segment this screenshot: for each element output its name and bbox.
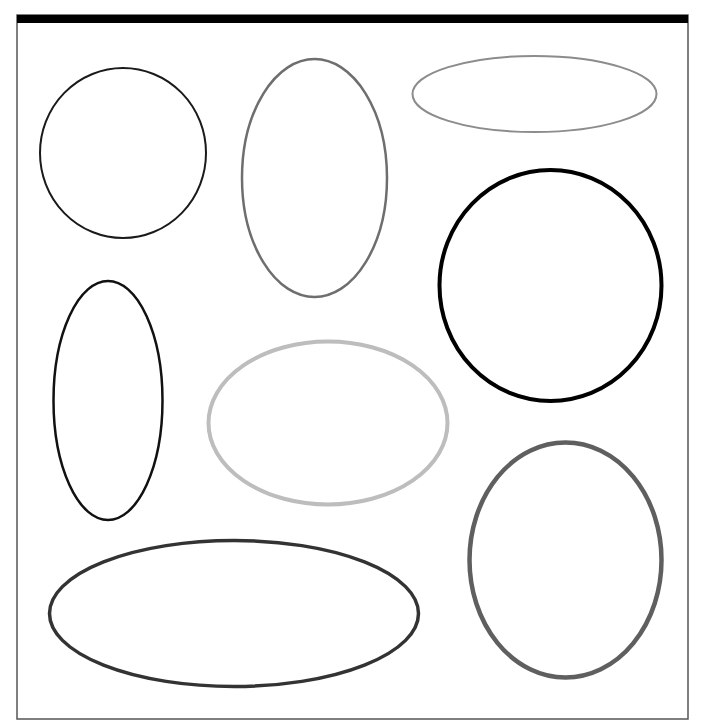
- header-bar: [17, 15, 688, 23]
- circle-top-left: [40, 68, 206, 238]
- ellipse-tall-top-mid: [242, 59, 387, 297]
- circle-right: [440, 170, 662, 401]
- ellipse-bottom-wide: [50, 541, 419, 687]
- ellipse-group: [40, 56, 662, 687]
- ellipse-wide-top-right: [413, 56, 657, 132]
- ellipse-tall-left: [54, 281, 163, 520]
- ellipse-center: [209, 342, 448, 505]
- ellipse-bottom-right: [470, 443, 662, 678]
- shapes-canvas: [0, 0, 709, 728]
- frame-border: [17, 15, 688, 719]
